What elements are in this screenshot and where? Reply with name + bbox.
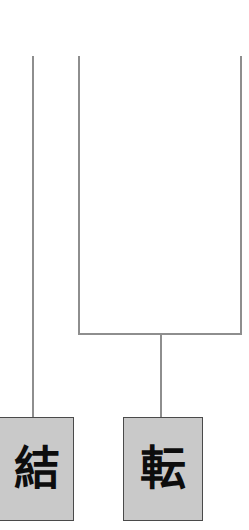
branch-left-long-edge (32, 56, 34, 418)
branch-middle-upper-edge (78, 56, 80, 334)
tree-diagram-canvas: 結 転 (0, 0, 249, 530)
terminal-node-ketsu[interactable]: 結 (0, 417, 74, 521)
branch-stem-down-edge (160, 333, 162, 418)
branch-right-upper-edge (240, 56, 242, 334)
terminal-node-ketsu-label: 結 (14, 445, 60, 491)
terminal-node-ten-label: 転 (140, 445, 186, 491)
terminal-node-ten[interactable]: 転 (123, 417, 203, 521)
